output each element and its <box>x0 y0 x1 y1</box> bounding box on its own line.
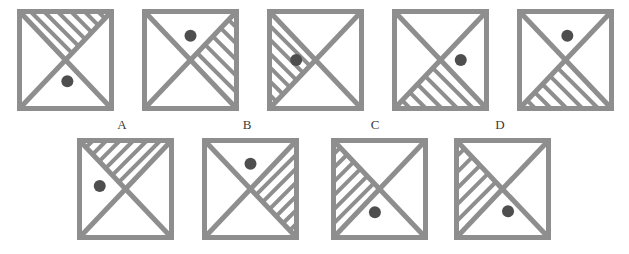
hatch-line <box>456 173 487 204</box>
option-d-dot <box>502 205 514 217</box>
sequence-3-dot <box>290 54 302 66</box>
option-a-dot <box>93 180 105 192</box>
sequence-figure-1 <box>17 9 114 111</box>
sequence-4-dot <box>454 54 466 66</box>
sequence-figure-4 <box>392 9 489 111</box>
option-label-d: D <box>488 118 512 132</box>
hatch-line <box>425 76 457 108</box>
hatch-line <box>205 44 236 75</box>
option-label-c: C <box>363 118 387 132</box>
option-b-dot <box>244 157 256 169</box>
hatch-line <box>57 11 85 39</box>
sequence-2-dot <box>184 29 196 41</box>
option-figure-c[interactable] <box>331 138 428 240</box>
hatch-line <box>105 140 133 168</box>
sequence-figure-5 <box>517 9 614 111</box>
hatch-line <box>269 182 296 209</box>
sequence-figure-3 <box>267 9 364 111</box>
sequence-1-dot <box>61 75 73 87</box>
option-figure-d[interactable] <box>454 138 551 240</box>
option-figure-b[interactable] <box>202 138 299 240</box>
option-label-b: B <box>235 118 259 132</box>
puzzle-canvas: ABCD <box>0 0 629 254</box>
hatch-line <box>550 76 582 108</box>
option-label-a: A <box>110 118 134 132</box>
option-figure-a[interactable] <box>77 138 174 240</box>
option-c-dot <box>368 206 380 218</box>
hatch-line <box>333 168 360 195</box>
sequence-5-dot <box>561 29 573 41</box>
sequence-figure-2 <box>142 9 239 111</box>
